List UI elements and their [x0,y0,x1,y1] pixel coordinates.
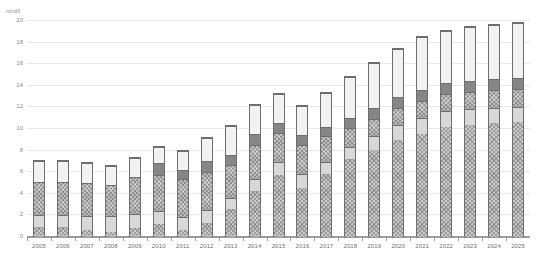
bar-segment [393,97,403,108]
bar-column [434,21,458,237]
bar-segment [393,108,403,125]
bar-segment [82,163,92,182]
bar-segment [82,183,92,216]
bar-segment [513,107,523,122]
x-tick-labels: 2005200620072008200920102011201220132014… [27,237,530,249]
bar-column [458,21,482,237]
bar-segment [393,125,403,140]
x-tick-cell: 2021 [410,237,434,249]
stacked-bar[interactable] [368,62,380,237]
x-tick-cell: 2015 [267,237,291,249]
bar-segment [417,101,427,118]
x-tick-label: 2016 [290,243,314,249]
y-tick-label: 10 [16,125,23,131]
bar-column [123,21,147,237]
bar-column [386,21,410,237]
bar-segment [274,133,284,162]
bar-segment [82,230,92,237]
stacked-bar[interactable] [273,93,285,237]
bar-segment [178,217,188,230]
x-tick-cell: 2025 [506,237,530,249]
bar-segment [226,165,236,198]
stacked-bar[interactable] [344,76,356,237]
bar-segment [417,134,427,237]
x-tick-cell: 2007 [75,237,99,249]
bar-segment [82,216,92,230]
bar-segment [226,126,236,155]
bar-segment [417,37,427,90]
y-tick-label: 6 [20,168,23,174]
x-tick-mark [506,237,507,241]
bar-segment [417,118,427,134]
stacked-bar[interactable] [249,104,261,237]
x-tick-label: 2011 [171,243,195,249]
x-tick-label: 2022 [434,243,458,249]
stacked-bar[interactable] [177,150,189,237]
x-tick-label: 2017 [314,243,338,249]
bar-segment [154,224,164,237]
x-tick-cell: 2022 [434,237,458,249]
y-tick-label: 18 [16,39,23,45]
stacked-bar[interactable] [33,160,45,237]
stacked-bar[interactable] [57,160,69,237]
x-tick-mark [243,237,244,241]
bar-segment [178,179,188,216]
stacked-bar[interactable] [129,157,141,237]
bar-segment [130,228,140,237]
bar-segment [489,25,499,79]
bar-segment [202,223,212,237]
stacked-bar[interactable] [225,125,237,237]
x-tick-mark [386,237,387,241]
stacked-bar[interactable] [105,165,117,237]
x-tick-label: 2023 [458,243,482,249]
bar-segment [489,108,499,123]
bar-segment [34,227,44,237]
x-tick-cell: 2011 [171,237,195,249]
stacked-bar[interactable] [512,22,524,237]
bar-segment [250,105,260,134]
bar-segment [441,94,451,111]
bar-segment [513,89,523,107]
bar-segment [202,172,212,211]
stacked-bar[interactable] [464,26,476,237]
bar-segment [34,182,44,215]
bar-segment [250,145,260,179]
stacked-bar[interactable] [416,36,428,237]
x-tick-mark [123,237,124,241]
stacked-bar[interactable] [201,137,213,237]
bar-column [362,21,386,237]
stacked-bar[interactable] [81,162,93,237]
x-tick-cell: 2023 [458,237,482,249]
bar-segment [178,151,188,170]
stacked-bar[interactable] [153,146,165,237]
bar-segment [489,123,499,237]
bar-segment [34,215,44,228]
x-tick-cell: 2008 [99,237,123,249]
bar-segment [274,175,284,237]
bar-segment [369,119,379,136]
stacked-bar[interactable] [392,48,404,237]
x-tick-cell: 2012 [195,237,219,249]
x-tick-cell: 2018 [338,237,362,249]
bar-segment [154,163,164,175]
bar-segment [58,161,68,181]
x-tick-label: 2006 [51,243,75,249]
stacked-bar[interactable] [488,24,500,237]
bar-segment [178,230,188,237]
bar-segment [441,31,451,84]
stacked-bar[interactable] [440,30,452,237]
bar-segment [250,191,260,237]
x-tick-label: 2014 [243,243,267,249]
x-tick-mark [147,237,148,241]
x-tick-label: 2024 [482,243,506,249]
x-tick-label: 2015 [267,243,291,249]
y-tick-label: 2 [20,211,23,217]
x-tick-label: 2021 [410,243,434,249]
bar-segment [202,210,212,223]
bar-column [314,21,338,237]
stacked-bar[interactable] [296,105,308,237]
x-tick-label: 2009 [123,243,147,249]
stacked-bar[interactable] [320,92,332,237]
bar-column [410,21,434,237]
bar-segment [226,209,236,237]
